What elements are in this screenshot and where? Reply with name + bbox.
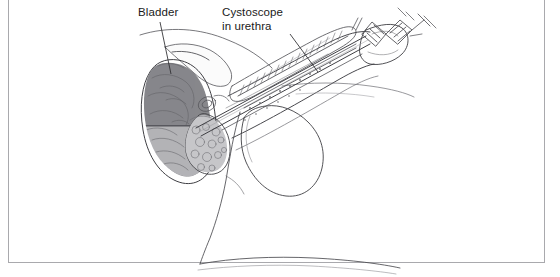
penis-shaft (226, 31, 378, 150)
glans (359, 24, 408, 64)
label-cystoscope-line1: Cystoscope (222, 6, 283, 18)
leader-line-cystoscope (290, 34, 318, 72)
body-contour (198, 83, 414, 274)
label-cystoscope-line2: in urethra (222, 20, 272, 32)
scrotum (241, 106, 323, 197)
cystoscopy-illustration (0, 0, 560, 277)
label-bladder: Bladder (138, 6, 178, 20)
anatomy-group (138, 24, 414, 274)
figure-root: Bladder Cystoscopein urethra (0, 0, 560, 277)
label-cystoscope-in-urethra: Cystoscopein urethra (222, 6, 283, 33)
